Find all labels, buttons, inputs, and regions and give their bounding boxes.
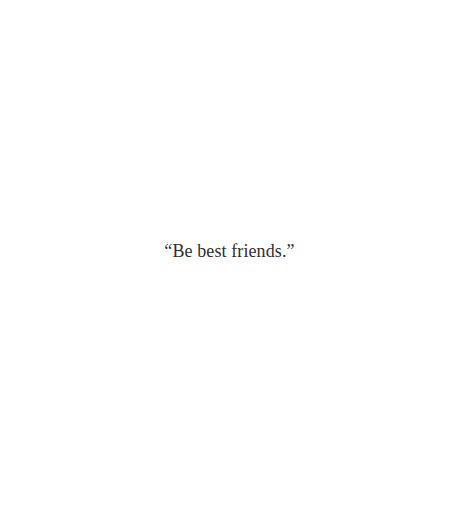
quote-text: “Be best friends.” — [0, 240, 459, 262]
page-canvas: “Be best friends.” — [0, 0, 459, 509]
